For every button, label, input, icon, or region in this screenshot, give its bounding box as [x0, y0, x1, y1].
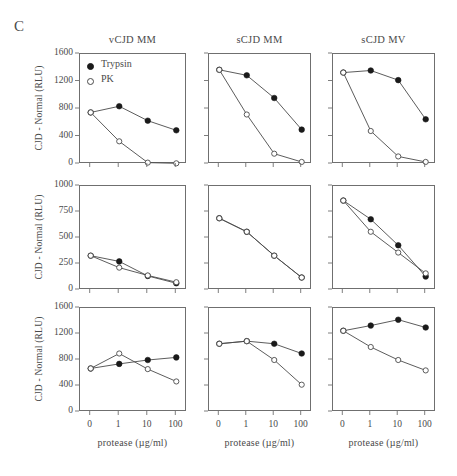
- legend-label-trypsin: Trypsin: [101, 58, 132, 69]
- column-title-scjd-mm: sCJD MM: [208, 34, 311, 45]
- x-tick-label: 100: [285, 419, 317, 429]
- legend-marker-pk: [87, 78, 94, 85]
- x-tick-label: 100: [409, 419, 441, 429]
- legend-label-pk: PK: [101, 73, 114, 84]
- x-axis-label: protease (µg/ml): [79, 437, 186, 448]
- axis-ticks-row1-col1: [79, 53, 186, 163]
- axis-ticks-row2-col2: [208, 185, 311, 289]
- column-title-vcjd-mm: vCJD MM: [79, 34, 186, 45]
- x-tick-label: 0: [74, 419, 106, 429]
- x-axis-label: protease (µg/ml): [332, 437, 435, 448]
- axis-ticks-row3-col3: [332, 307, 435, 411]
- panel-letter: C: [14, 18, 25, 35]
- axis-ticks-row3-col1: [79, 307, 186, 411]
- axis-ticks-row1-col2: [208, 53, 311, 163]
- axis-ticks-row3-col2: [208, 307, 311, 411]
- figure-panel-c: C vCJD MM sCJD MM sCJD MV 04008001200160…: [0, 0, 457, 476]
- x-tick-label: 100: [159, 419, 191, 429]
- axis-ticks-row2-col3: [332, 185, 435, 289]
- axis-ticks-row1-col3: [332, 53, 435, 163]
- x-axis-label: protease (µg/ml): [208, 437, 311, 448]
- y-axis-label: CJD - Normal (RLU): [34, 185, 44, 289]
- y-axis-label: CJD - Normal (RLU): [34, 53, 44, 163]
- column-title-scjd-mv: sCJD MV: [332, 34, 435, 45]
- axis-ticks-row2-col1: [79, 185, 186, 289]
- y-axis-label: CJD - Normal (RLU): [34, 307, 44, 411]
- x-tick-label: 10: [131, 419, 163, 429]
- x-tick-label: 1: [102, 419, 134, 429]
- legend-marker-trypsin: [87, 63, 94, 70]
